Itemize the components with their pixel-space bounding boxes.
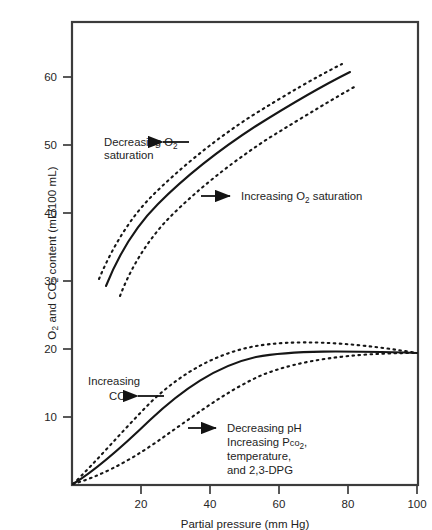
x-axis-ticks xyxy=(141,485,417,494)
annotation-decreasing-ph-line2: Increasing Pco2, xyxy=(227,436,307,451)
x-tick-100: 100 xyxy=(407,498,426,510)
annotation-increasing-co: Increasing CO xyxy=(88,375,164,402)
o2-curve-group xyxy=(99,64,356,296)
annotation-decreasing-ph-line4: and 2,3-DPG xyxy=(227,464,293,476)
plot-frame xyxy=(72,22,418,485)
annotation-decreasing-ph: Decreasing pH Increasing Pco2, temperatu… xyxy=(188,422,307,476)
x-tick-20: 20 xyxy=(135,498,148,510)
o2-curve-solid xyxy=(106,72,350,286)
annotation-increasing-co-line1: Increasing xyxy=(88,375,140,387)
annotation-increasing-o2-text: Increasing O2 saturation xyxy=(241,190,362,205)
chart-canvas: 10 20 30 40 50 60 20 40 60 80 100 xyxy=(0,0,432,530)
y-axis-ticks xyxy=(63,77,72,417)
oxygen-co2-dissociation-chart: 10 20 30 40 50 60 20 40 60 80 100 xyxy=(0,0,432,530)
annotation-increasing-co-line2: CO xyxy=(109,390,126,402)
annotation-decreasing-o2-line2: saturation xyxy=(104,149,154,161)
y-tick-10: 10 xyxy=(44,411,57,423)
x-tick-60: 60 xyxy=(273,498,286,510)
y-axis-label-text: O2 and CO2 content (mL/100 mL) xyxy=(46,166,58,339)
x-tick-40: 40 xyxy=(204,498,217,510)
annotation-decreasing-ph-line3: temperature, xyxy=(227,450,291,462)
x-axis-label: Partial pressure (mm Hg) xyxy=(72,518,418,530)
y-axis-label: O2 and CO2 content (mL/100 mL) xyxy=(46,103,58,403)
x-tick-80: 80 xyxy=(342,498,355,510)
annotation-decreasing-ph-line1: Decreasing pH xyxy=(227,422,302,434)
y-tick-60: 60 xyxy=(44,71,57,83)
annotation-decreasing-o2-saturation: Decreasing O2 saturation xyxy=(104,136,189,161)
annotation-increasing-o2-saturation: Increasing O2 saturation xyxy=(201,190,362,205)
x-axis-tick-labels: 20 40 60 80 100 xyxy=(135,498,427,510)
co2-curve-group xyxy=(73,342,417,484)
